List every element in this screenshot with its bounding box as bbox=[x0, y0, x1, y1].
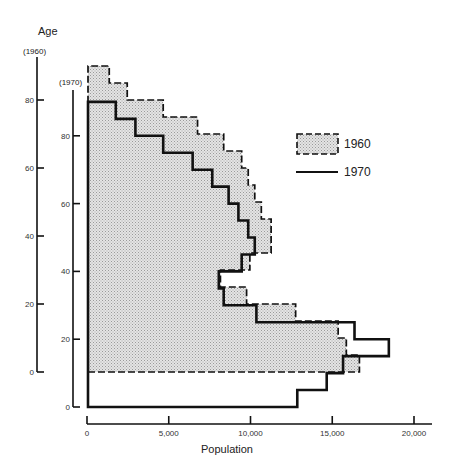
x-tick-label: 5,000 bbox=[159, 429, 180, 438]
bar-1970-5-9 bbox=[88, 373, 327, 390]
legend-swatch-1960 bbox=[297, 134, 338, 154]
x-axis: 05,00010,00015,00020,000 bbox=[85, 416, 432, 438]
x-tick-label: 15,000 bbox=[320, 429, 345, 438]
y-tick-label: 80 bbox=[61, 132, 70, 141]
legend-label-1970: 1970 bbox=[344, 165, 371, 179]
y-axis-1960-label: (1960) bbox=[23, 47, 46, 56]
series-1960 bbox=[88, 66, 359, 372]
population-chart: Age (1960) 020406080 (1970) 020406080 05… bbox=[0, 0, 455, 475]
area-1960 bbox=[88, 66, 359, 372]
y-axis-1970: (1970) 020406080 bbox=[59, 78, 82, 412]
legend-label-1960: 1960 bbox=[344, 137, 371, 151]
y-tick-label: 40 bbox=[25, 232, 34, 241]
y-axis-1960: (1960) 020406080 bbox=[23, 47, 46, 377]
x-tick-label: 0 bbox=[85, 429, 90, 438]
legend: 1960 1970 bbox=[296, 134, 371, 179]
y-tick-label: 60 bbox=[25, 164, 34, 173]
y-tick-label: 20 bbox=[25, 300, 34, 309]
y-axis-1970-label: (1970) bbox=[59, 78, 82, 87]
y-tick-label: 60 bbox=[61, 200, 70, 209]
y-tick-label: 0 bbox=[66, 403, 71, 412]
x-tick-label: 10,000 bbox=[238, 429, 263, 438]
x-axis-title: Population bbox=[201, 443, 253, 455]
y-axis-title: Age bbox=[38, 25, 58, 37]
x-tick-label: 20,000 bbox=[402, 429, 427, 438]
bar-1970-0-4 bbox=[88, 390, 297, 407]
y-tick-label: 80 bbox=[25, 96, 34, 105]
y-tick-label: 20 bbox=[61, 335, 70, 344]
y-tick-label: 0 bbox=[30, 368, 35, 377]
y-tick-label: 40 bbox=[61, 267, 70, 276]
